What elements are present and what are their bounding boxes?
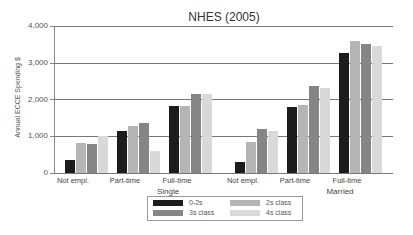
x-axis-line bbox=[54, 173, 393, 174]
bar bbox=[169, 106, 179, 173]
bar bbox=[257, 129, 267, 173]
bar bbox=[361, 44, 371, 173]
y-tick-1000: 1,000 bbox=[10, 131, 48, 140]
bar bbox=[339, 53, 349, 173]
legend-swatch bbox=[230, 210, 260, 216]
bar bbox=[268, 131, 278, 173]
bar bbox=[320, 88, 330, 173]
bar bbox=[180, 106, 190, 173]
y-tick-4000: 4,000 bbox=[10, 21, 48, 30]
legend-label: 2s class bbox=[266, 199, 291, 206]
bar bbox=[65, 160, 75, 173]
x-category-label: Full-time bbox=[147, 176, 207, 185]
legend-item-2s-class: 2s class bbox=[230, 199, 291, 206]
bar bbox=[309, 86, 319, 173]
x-category-label: Full-time bbox=[317, 176, 377, 185]
bar bbox=[128, 126, 138, 173]
bar bbox=[98, 136, 108, 173]
legend-swatch bbox=[230, 200, 260, 206]
bar bbox=[76, 143, 86, 173]
y-tick-2000: 2,000 bbox=[10, 95, 48, 104]
x-category-label: Not empl. bbox=[43, 176, 103, 185]
legend-swatch bbox=[153, 200, 183, 206]
legend-item-3s-class: 3s class bbox=[153, 209, 214, 216]
bar bbox=[202, 94, 212, 173]
bar bbox=[298, 105, 308, 173]
bar bbox=[139, 123, 149, 173]
bar bbox=[191, 94, 201, 173]
legend-item-4s-class: 4s class bbox=[230, 209, 291, 216]
bar bbox=[117, 131, 127, 173]
bar bbox=[246, 142, 256, 173]
bar bbox=[372, 46, 382, 173]
y-tick-3000: 3,000 bbox=[10, 58, 48, 67]
group-label-married: Married bbox=[300, 187, 380, 196]
legend-label: 0-2s bbox=[189, 199, 203, 206]
gridline-4000 bbox=[54, 26, 393, 27]
bar bbox=[235, 162, 245, 173]
chart-title: NHES (2005) bbox=[0, 10, 413, 24]
legend-label: 4s class bbox=[266, 209, 291, 216]
bar bbox=[150, 151, 160, 173]
x-category-label: Not empl. bbox=[213, 176, 273, 185]
bar bbox=[287, 107, 297, 173]
x-category-label: Part-time bbox=[95, 176, 155, 185]
legend-swatch bbox=[153, 210, 183, 216]
bar bbox=[87, 144, 97, 173]
legend-item-0-2s: 0-2s bbox=[153, 199, 203, 206]
legend: 0-2s 2s class 3s class 4s class bbox=[147, 196, 303, 221]
group-label-single: Single bbox=[128, 187, 208, 196]
x-category-label: Part-time bbox=[265, 176, 325, 185]
legend-label: 3s class bbox=[189, 209, 214, 216]
bar bbox=[350, 41, 360, 173]
